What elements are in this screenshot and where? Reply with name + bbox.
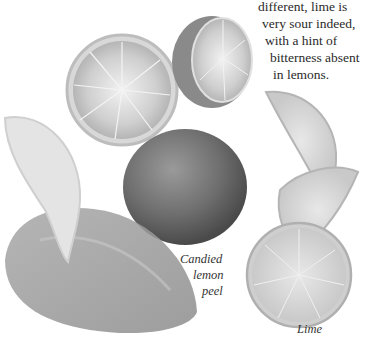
text-line: with a hint of — [265, 32, 337, 49]
caption-line: lemon — [193, 268, 224, 282]
lime-slice — [247, 223, 351, 327]
caption-line: peel — [202, 284, 223, 298]
text-line: in lemons. — [273, 66, 329, 83]
caption-line: Candied — [180, 252, 222, 266]
text-line: bitterness absent — [270, 49, 360, 66]
lime-half-cut — [67, 35, 177, 145]
caption-lime: Lime — [297, 322, 322, 336]
lime-half-side — [172, 16, 252, 108]
text-line: very sour indeed, — [262, 15, 355, 32]
text-line: different, lime is — [258, 0, 347, 15]
